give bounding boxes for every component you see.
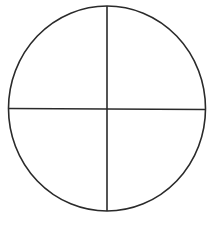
- fraction-circle-diagram: [0, 0, 221, 226]
- horizontal-divider-line: [9, 109, 206, 110]
